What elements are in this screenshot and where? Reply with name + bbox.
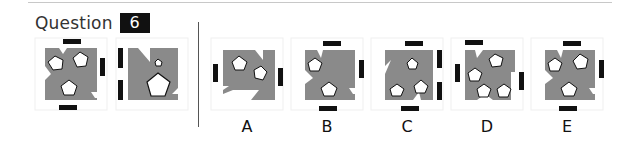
option-b-figure[interactable] (289, 36, 365, 112)
sequence-figure-1 (33, 36, 109, 112)
option-a-label[interactable]: A (209, 117, 285, 136)
bar-top (63, 39, 81, 44)
option-e-figure[interactable] (529, 36, 605, 112)
sequence-figure-2 (114, 36, 190, 112)
option-d-label[interactable]: D (449, 117, 525, 136)
question-header: Question 6 (35, 13, 150, 33)
bar-right (100, 58, 105, 76)
divider (198, 22, 199, 127)
bar-top (563, 41, 581, 46)
grey-shape (223, 50, 275, 100)
bar-right-bottom (437, 82, 442, 100)
option-a-figure[interactable] (209, 36, 285, 112)
option-c-figure[interactable] (369, 36, 445, 112)
bar-bottom (319, 106, 337, 111)
bar-bottom (59, 105, 77, 110)
bar-right (278, 68, 283, 86)
option-c-label[interactable]: C (369, 117, 445, 136)
bar-left-top (118, 48, 123, 68)
option-e-label[interactable]: E (529, 117, 605, 136)
option-d-figure[interactable] (449, 36, 525, 112)
bar-top (323, 41, 341, 46)
bar-right-top (437, 50, 442, 68)
bar-bottom (401, 106, 419, 111)
bar-top (465, 40, 483, 45)
bar-left (455, 64, 460, 82)
top-rule (28, 2, 612, 3)
bar-left (213, 64, 218, 82)
bar-right (599, 60, 604, 78)
question-number-badge: 6 (120, 13, 150, 33)
bar-left-bottom (118, 80, 123, 100)
bar-bottom (559, 106, 577, 111)
option-b-label[interactable]: B (289, 117, 365, 136)
question-label: Question (35, 13, 113, 33)
bar-right (359, 60, 364, 78)
bar-right (519, 72, 524, 90)
bar-top (405, 41, 423, 46)
